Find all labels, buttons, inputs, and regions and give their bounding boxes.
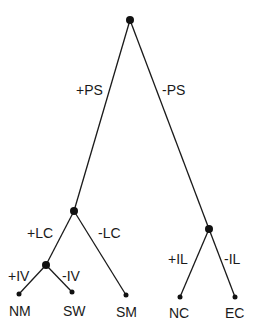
edge-label-minus-iv: -IV (62, 268, 81, 284)
leaf-label-nc: NC (169, 305, 189, 321)
root-node (126, 16, 134, 24)
leaf-label-ec: EC (225, 305, 244, 321)
edge-label-plus-lc: +LC (27, 225, 53, 241)
leaf-node-sm (124, 293, 129, 298)
edge-root-to-lc (74, 20, 130, 211)
leaf-labels: NM SW SM NC EC (9, 303, 244, 321)
edge-label-plus-iv: +IV (8, 268, 30, 284)
leaf-label-sw: SW (63, 303, 86, 319)
edge-root-to-il (130, 20, 209, 229)
iv-node (42, 261, 50, 269)
edge-label-plus-il: +IL (168, 251, 188, 267)
edge-label-plus-ps: +PS (76, 82, 103, 98)
feature-tree-diagram: +PS -PS +LC -LC +IV -IV +IL -IL NM SW SM… (0, 0, 255, 329)
leaf-label-sm: SM (116, 304, 137, 320)
edge-label-minus-lc: -LC (98, 225, 121, 241)
leaf-nodes (17, 290, 238, 300)
leaf-node-ec (233, 295, 238, 300)
internal-nodes (42, 16, 213, 269)
lc-node (70, 207, 78, 215)
leaf-label-nm: NM (9, 303, 31, 319)
edge-labels: +PS -PS +LC -LC +IV -IV +IL -IL (8, 82, 241, 284)
edge-label-minus-ps: -PS (162, 82, 185, 98)
edge-label-minus-il: -IL (224, 251, 241, 267)
edges (19, 20, 235, 297)
edge-lc-to-sm (74, 211, 126, 295)
leaf-node-sw (70, 290, 75, 295)
leaf-node-nm (17, 292, 22, 297)
leaf-node-nc (178, 295, 183, 300)
il-node (205, 225, 213, 233)
